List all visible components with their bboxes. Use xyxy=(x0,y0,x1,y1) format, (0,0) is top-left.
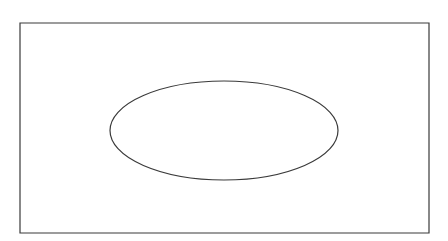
rectangle-outline xyxy=(20,23,429,233)
figure-canvas xyxy=(0,0,448,241)
figure-drawing xyxy=(0,0,448,241)
ellipse-outline xyxy=(110,81,338,180)
